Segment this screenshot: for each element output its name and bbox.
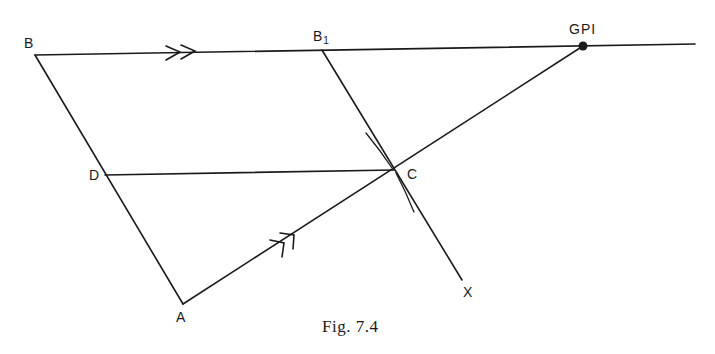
line-a-gpi bbox=[183, 46, 583, 304]
line-d-c bbox=[105, 170, 394, 175]
geometric-construction-diagram: B B1 GPI D C A X Fig. 7.4 bbox=[0, 0, 715, 354]
arc-mark-upper bbox=[366, 133, 392, 168]
label-d: D bbox=[89, 167, 100, 183]
line-b1-x bbox=[322, 50, 462, 280]
label-b1: B1 bbox=[313, 28, 330, 46]
label-a: A bbox=[176, 309, 186, 325]
label-c: C bbox=[407, 166, 418, 182]
gpi-point-dot bbox=[579, 42, 588, 51]
label-b: B bbox=[24, 35, 34, 51]
figure-caption: Fig. 7.4 bbox=[322, 317, 378, 336]
line-b-gpi bbox=[35, 44, 695, 55]
label-x: X bbox=[463, 284, 473, 300]
label-gpi: GPI bbox=[569, 21, 596, 37]
line-b-a bbox=[35, 55, 183, 304]
